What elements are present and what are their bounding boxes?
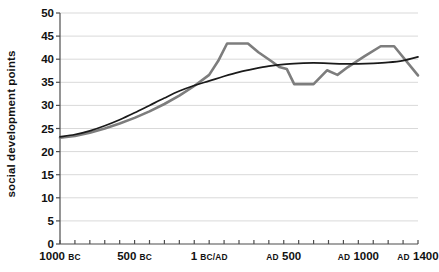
series-line-gray (60, 43, 418, 137)
